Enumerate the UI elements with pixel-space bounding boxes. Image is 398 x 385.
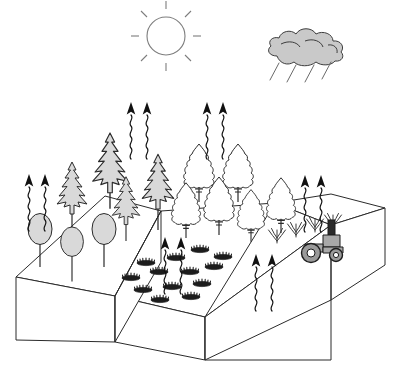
flux-broadleaf-canopy [203, 102, 228, 159]
sun-icon [131, 1, 201, 71]
diagram-canvas: Isometric land-use blocks with vegetatio… [0, 0, 398, 385]
land-use-flux-diagram [0, 0, 398, 385]
rain-cloud-icon [269, 29, 343, 82]
flux-conifer-canopy [127, 102, 152, 159]
